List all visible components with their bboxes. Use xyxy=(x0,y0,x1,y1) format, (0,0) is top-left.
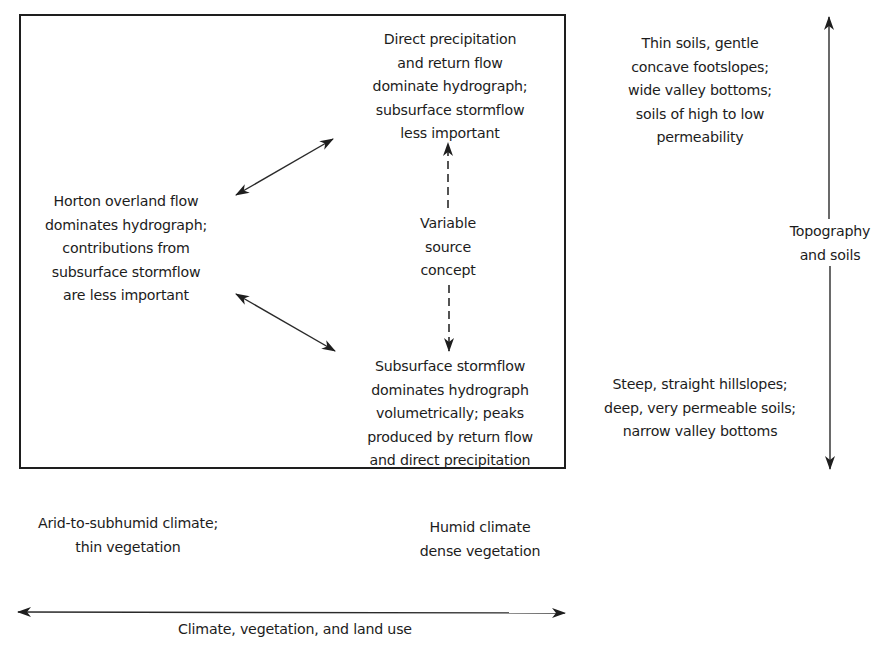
text-line: permeability xyxy=(595,126,805,150)
text-line: thin vegetation xyxy=(8,536,248,560)
text-line: concept xyxy=(398,259,498,283)
vertical-axis-label: Topography and soils xyxy=(774,220,886,267)
text-line: Steep, straight hillslopes; xyxy=(580,373,820,397)
horizontal-axis-label: Climate, vegetation, and land use xyxy=(150,618,440,642)
text-line: Horton overland flow xyxy=(26,190,226,214)
text-line: Humid climate xyxy=(390,516,570,540)
bottom-node-text: Subsurface stormflow dominates hydrograp… xyxy=(340,355,560,473)
text-line: concave footslopes; xyxy=(595,56,805,80)
text-line: and soils xyxy=(774,244,886,268)
text-line: contributions from xyxy=(26,237,226,261)
text-line: Arid-to-subhumid climate; xyxy=(8,512,248,536)
left-node-text: Horton overland flow dominates hydrograp… xyxy=(26,190,226,308)
text-line: dominates hydrograph xyxy=(340,379,560,403)
center-label-text: Variable source concept xyxy=(398,212,498,283)
text-line: dominates hydrograph; xyxy=(26,214,226,238)
text-line: and direct precipitation xyxy=(340,449,560,473)
vertical-bottom-end-text: Steep, straight hillslopes; deep, very p… xyxy=(580,373,820,444)
horizontal-right-end-text: Humid climate dense vegetation xyxy=(390,516,570,563)
text-line: volumetrically; peaks xyxy=(340,402,560,426)
text-line: and return flow xyxy=(350,52,550,76)
text-line: narrow valley bottoms xyxy=(580,420,820,444)
text-line: Climate, vegetation, and land use xyxy=(150,618,440,642)
text-line: Variable xyxy=(398,212,498,236)
double-arrow-lower xyxy=(236,294,335,351)
text-line: dominate hydrograph; xyxy=(350,75,550,99)
text-line: soils of high to low xyxy=(595,103,805,127)
horizontal-left-end-text: Arid-to-subhumid climate; thin vegetatio… xyxy=(8,512,248,559)
double-arrow-upper xyxy=(236,139,333,195)
text-line: source xyxy=(398,236,498,260)
text-line: Subsurface stormflow xyxy=(340,355,560,379)
text-line: subsurface stormflow xyxy=(26,261,226,285)
text-line: dense vegetation xyxy=(390,540,570,564)
text-line: are less important xyxy=(26,284,226,308)
text-line: Topography xyxy=(774,220,886,244)
vertical-top-end-text: Thin soils, gentle concave footslopes; w… xyxy=(595,32,805,150)
text-line: less important xyxy=(350,122,550,146)
top-node-text: Direct precipitation and return flow dom… xyxy=(350,28,550,146)
text-line: Thin soils, gentle xyxy=(595,32,805,56)
text-line: subsurface stormflow xyxy=(350,99,550,123)
text-line: produced by return flow xyxy=(340,426,560,450)
text-line: deep, very permeable soils; xyxy=(580,397,820,421)
text-line: wide valley bottoms; xyxy=(595,79,805,103)
horizontal-axis xyxy=(18,612,565,613)
text-line: Direct precipitation xyxy=(350,28,550,52)
